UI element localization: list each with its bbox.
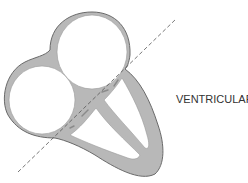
ventricular-label: VENTRICULAR: [176, 93, 248, 105]
left-atrium-chamber: [9, 66, 75, 134]
heart-diagram: [0, 0, 248, 183]
right-atrium-chamber: [57, 15, 127, 89]
